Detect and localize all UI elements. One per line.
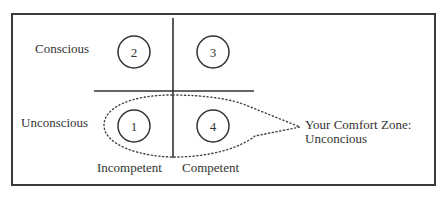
quadrant-number: 3 (210, 45, 217, 60)
row-label-unconscious: Unconscious (21, 116, 88, 130)
quadrant-4: 4 (197, 110, 229, 142)
quadrant-1: 1 (118, 110, 150, 142)
quadrant-3: 3 (197, 36, 229, 68)
quadrant-number: 2 (131, 45, 138, 60)
callout-subtitle: Unconcious (305, 132, 367, 146)
column-label-competent: Competent (182, 161, 239, 175)
callout-title: Your Comfort Zone: (305, 118, 411, 132)
column-label-incompetent: Incompetent (97, 161, 162, 175)
quadrant-2: 2 (118, 36, 150, 68)
quadrant-number: 1 (131, 119, 138, 134)
quadrant-number: 4 (210, 119, 217, 134)
row-label-conscious: Conscious (35, 42, 89, 56)
